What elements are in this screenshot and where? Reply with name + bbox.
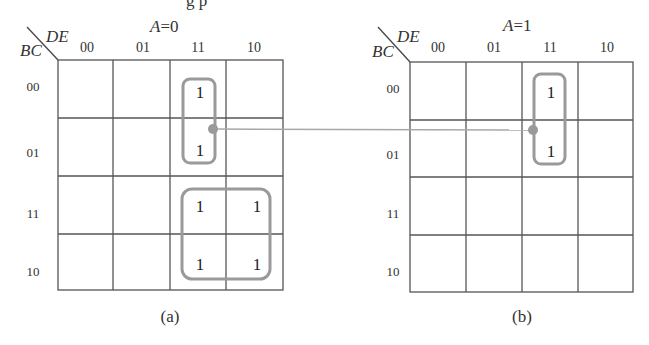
connector-dot-a [208,124,218,134]
kmap-b-col-label: 11 [543,40,556,55]
kmap-b-row-label: 10 [387,264,400,279]
kmap-a-row-label: 10 [27,264,40,279]
kmap-b-row-label: 11 [387,206,400,221]
kmap-b-row-label: 00 [387,81,400,96]
kmap-b-row-label: 01 [387,147,400,162]
kmap-a-col-label: 11 [191,40,204,55]
kmap-a-row-label: 11 [27,206,40,221]
kmap-a-row-var: BC [20,41,42,60]
kmap-a-col-label: 01 [136,40,150,55]
cropped-caption-text: g p [186,0,207,10]
kmap-b-cell-00-11: 1 [547,83,556,102]
kmap-a-cell-11-11: 1 [196,197,205,216]
kmap-b-row-var: BC [372,42,394,61]
kmap-a-row-label: 00 [27,79,40,94]
kmap-a-caption: (a) [161,307,180,326]
kmap-b-col-label: 01 [487,40,501,55]
kmap-a-cell-01-11: 1 [196,141,205,160]
kmap-figure: g p A=0 DE BC 00 01 11 10 00 01 11 10 [0,0,649,345]
kmap-b-caption: (b) [512,307,532,326]
kmap-a-cell-11-10: 1 [253,197,262,216]
kmap-a-col-var: DE [45,27,69,46]
kmap-a-col-label: 00 [80,40,94,55]
kmap-a-col-label: 10 [247,40,261,55]
connector-dot-b [528,125,538,135]
kmap-a-grid [58,60,283,290]
kmap-a-cell-00-11: 1 [196,83,205,102]
kmap-a-row-label: 01 [27,145,40,160]
kmap-b-cell-01-11: 1 [547,142,556,161]
kmap-a-cell-10-11: 1 [196,255,205,274]
kmap-b: A=1 DE BC 00 01 11 10 00 01 11 10 1 1 (b… [372,16,633,326]
kmap-b-col-label: 10 [600,40,614,55]
kmap-a: A=0 DE BC 00 01 11 10 00 01 11 10 1 1 1 … [20,17,283,326]
kmap-b-col-var: DE [396,27,420,46]
kmap-b-col-label: 00 [431,40,445,55]
kmap-a-title: A=0 [149,17,178,36]
kmap-a-cell-10-10: 1 [253,255,262,274]
kmap-b-grid [410,62,633,292]
kmap-b-title: A=1 [502,16,531,35]
group-connector-line [213,129,533,130]
